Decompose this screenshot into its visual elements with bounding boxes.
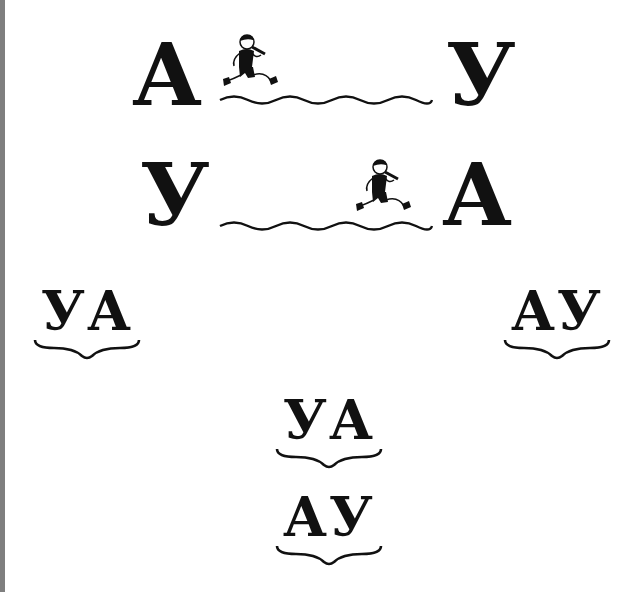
wavy-line-track-1 (218, 93, 433, 107)
row1-start-letter: А (132, 32, 202, 118)
left-edge-stripe (0, 0, 5, 592)
running-boy-with-flute-icon (219, 33, 291, 95)
wavy-line-track-2 (218, 219, 433, 233)
syllable-center-bottom: АУ (274, 490, 384, 570)
syllable-left-text: УА (32, 284, 142, 338)
row2-start-letter: У (140, 152, 210, 238)
syllable-left: УА (32, 284, 142, 364)
running-boy-with-flute-icon (352, 158, 424, 220)
syllable-right: АУ (502, 284, 612, 364)
syllable-right-text: АУ (502, 284, 612, 338)
syllable-center-bottom-text: АУ (274, 490, 384, 544)
row1-end-letter: У (446, 32, 516, 118)
syllable-center-top-text: УА (274, 393, 384, 447)
row2-end-letter: А (442, 152, 512, 238)
syllable-center-top: УА (274, 393, 384, 473)
